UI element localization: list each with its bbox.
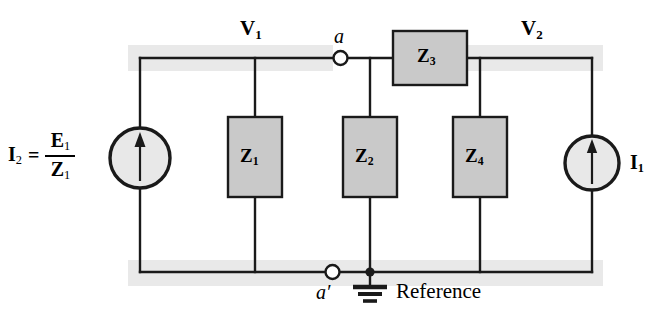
z3-symbol: Z (417, 45, 430, 66)
node-a-prime-label: a′ (316, 282, 330, 302)
source-left-label: I2 = E1 Z1 (8, 130, 75, 182)
circuit-diagram-canvas: V1 V2 a a′ Reference Z1 Z2 Z3 Z4 I2 = E1… (0, 0, 663, 314)
source-left-numerator: E1 (49, 130, 73, 155)
source-left-current-symbol: I2 (8, 143, 22, 168)
node-a-label: a (334, 26, 344, 46)
reference-label: Reference (396, 281, 481, 302)
ground-symbol-icon (353, 287, 387, 301)
impedance-z3-label: Z3 (417, 46, 436, 68)
source-left-fraction: E1 Z1 (45, 130, 75, 182)
z1-symbol: Z (240, 145, 253, 166)
node-voltage-v1-label: V1 (240, 18, 262, 41)
z4-symbol: Z (465, 145, 478, 166)
v1-subscript: 1 (255, 27, 262, 42)
source-left-denominator: Z1 (49, 157, 73, 182)
junction-dot-reference (365, 267, 374, 276)
source-left-equals-sign: = (28, 144, 39, 167)
v1-symbol: V (240, 16, 255, 40)
z2-subscript: 2 (368, 155, 374, 168)
z4-subscript: 4 (478, 155, 484, 168)
v2-subscript: 2 (536, 27, 543, 42)
impedance-z1-label: Z1 (240, 146, 259, 168)
impedance-z4-label: Z4 (465, 146, 484, 168)
z1-subscript: 1 (253, 155, 259, 168)
node-voltage-v2-label: V2 (521, 18, 543, 41)
source-right-label: I1 (630, 152, 644, 175)
impedance-z2-label: Z2 (355, 146, 374, 168)
v2-symbol: V (521, 16, 536, 40)
z2-symbol: Z (355, 145, 368, 166)
node-a-prime-terminal-icon[interactable] (326, 265, 340, 279)
node-a-terminal-icon[interactable] (334, 51, 348, 65)
z3-subscript: 3 (430, 55, 436, 68)
circuit-schematic-svg (0, 0, 663, 314)
source-right-current-symbol: I (630, 151, 638, 173)
source-right-current-subscript: 1 (638, 161, 644, 175)
